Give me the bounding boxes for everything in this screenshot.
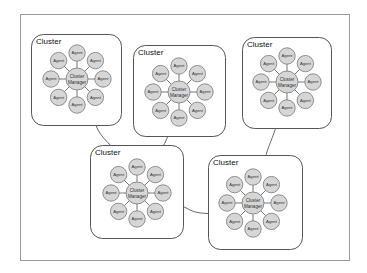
cluster-manager-node: ClusterManager [242, 192, 264, 214]
agent-label: Agent [266, 219, 278, 224]
agent-node: Agent [69, 97, 85, 113]
agent-node: Agent [263, 213, 279, 229]
agent-node: Agent [260, 55, 276, 71]
agent-node: Agent [147, 203, 163, 219]
clusters: ClusterAgentAgentAgentAgentAgentAgentAge… [32, 35, 332, 250]
cluster-label: Cluster [95, 148, 121, 157]
agent-label: Agent [158, 190, 170, 195]
cluster-4: ClusterAgentAgentAgentAgentAgentAgentAge… [91, 146, 184, 239]
agent-node: Agent [219, 195, 235, 211]
agent-label: Agent [155, 108, 167, 113]
agent-node: Agent [129, 211, 145, 227]
manager-label-line1: Cluster [246, 198, 261, 203]
cluster-5: ClusterAgentAgentAgentAgentAgentAgentAge… [209, 156, 303, 250]
agent-label: Agent [155, 71, 167, 76]
manager-label-line2: Manager [244, 204, 263, 209]
cluster-label: Cluster [213, 158, 239, 167]
agent-label: Agent [106, 190, 118, 195]
agent-node: Agent [103, 185, 119, 201]
agent-node: Agent [87, 52, 103, 68]
agent-label: Agent [200, 89, 212, 94]
manager-label-line2: Manager [128, 194, 147, 199]
agent-label: Agent [72, 50, 84, 55]
agent-node: Agent [279, 48, 295, 64]
cluster-manager-node: ClusterManager [168, 81, 190, 103]
manager-label-line2: Manager [278, 83, 297, 88]
cluster-manager-node: ClusterManager [126, 182, 148, 204]
agent-label: Agent [266, 182, 278, 187]
agent-node: Agent [171, 110, 187, 126]
cluster-1: ClusterAgentAgentAgentAgentAgentAgentAge… [32, 35, 122, 126]
cluster-manager-node: ClusterManager [66, 68, 88, 90]
agent-node: Agent [152, 65, 168, 81]
agent-label: Agent [113, 172, 125, 177]
agent-node: Agent [245, 221, 261, 237]
agent-node: Agent [305, 74, 321, 90]
agent-node: Agent [226, 213, 242, 229]
agent-node: Agent [129, 159, 145, 175]
agent-label: Agent [53, 95, 65, 100]
cluster-3: ClusterAgentAgentAgentAgentAgentAgentAge… [243, 38, 332, 129]
agent-node: Agent [189, 65, 205, 81]
agent-label: Agent [174, 63, 186, 68]
agent-node: Agent [197, 84, 213, 100]
agent-node: Agent [297, 55, 313, 71]
cluster-manager-node: ClusterManager [276, 71, 298, 93]
agent-node: Agent [297, 92, 313, 108]
cluster-architecture-diagram: ClusterAgentAgentAgentAgentAgentAgentAge… [0, 0, 367, 273]
agent-node: Agent [43, 71, 59, 87]
agent-label: Agent [263, 98, 275, 103]
agent-label: Agent [113, 209, 125, 214]
manager-label-line1: Cluster [130, 188, 145, 193]
agent-label: Agent [256, 79, 268, 84]
agent-node: Agent [279, 100, 295, 116]
agent-label: Agent [46, 76, 58, 81]
agent-label: Agent [282, 53, 294, 58]
agent-node: Agent [226, 176, 242, 192]
agent-node: Agent [152, 102, 168, 118]
agent-label: Agent [263, 61, 275, 66]
agent-node: Agent [189, 102, 205, 118]
agent-label: Agent [248, 226, 260, 231]
manager-label-line1: Cluster [280, 77, 295, 82]
agent-label: Agent [132, 164, 144, 169]
agent-node: Agent [271, 195, 287, 211]
agent-label: Agent [98, 76, 110, 81]
agent-node: Agent [50, 52, 66, 68]
agent-node: Agent [69, 45, 85, 61]
agent-node: Agent [87, 89, 103, 105]
agent-node: Agent [263, 176, 279, 192]
agent-label: Agent [300, 61, 312, 66]
agent-label: Agent [72, 102, 84, 107]
agent-label: Agent [222, 200, 234, 205]
cluster-label: Cluster [138, 48, 164, 57]
agent-node: Agent [145, 84, 161, 100]
agent-label: Agent [300, 98, 312, 103]
cluster-label: Cluster [247, 40, 273, 49]
manager-label-line2: Manager [68, 80, 87, 85]
agent-label: Agent [148, 89, 160, 94]
agent-node: Agent [147, 166, 163, 182]
agent-label: Agent [150, 209, 162, 214]
agent-label: Agent [174, 115, 186, 120]
agent-node: Agent [110, 203, 126, 219]
agent-node: Agent [260, 92, 276, 108]
agent-node: Agent [171, 58, 187, 74]
agent-node: Agent [245, 169, 261, 185]
cluster-label: Cluster [36, 37, 62, 46]
agent-node: Agent [155, 185, 171, 201]
agent-label: Agent [150, 172, 162, 177]
cluster-2: ClusterAgentAgentAgentAgentAgentAgentAge… [134, 46, 226, 137]
manager-label-line2: Manager [170, 93, 189, 98]
agent-node: Agent [110, 166, 126, 182]
agent-label: Agent [53, 58, 65, 63]
agent-node: Agent [50, 89, 66, 105]
agent-node: Agent [253, 74, 269, 90]
manager-label-line1: Cluster [172, 87, 187, 92]
agent-label: Agent [274, 200, 286, 205]
agent-label: Agent [90, 95, 102, 100]
agent-node: Agent [95, 71, 111, 87]
agent-label: Agent [229, 219, 241, 224]
agent-label: Agent [248, 174, 260, 179]
manager-label-line1: Cluster [70, 74, 85, 79]
